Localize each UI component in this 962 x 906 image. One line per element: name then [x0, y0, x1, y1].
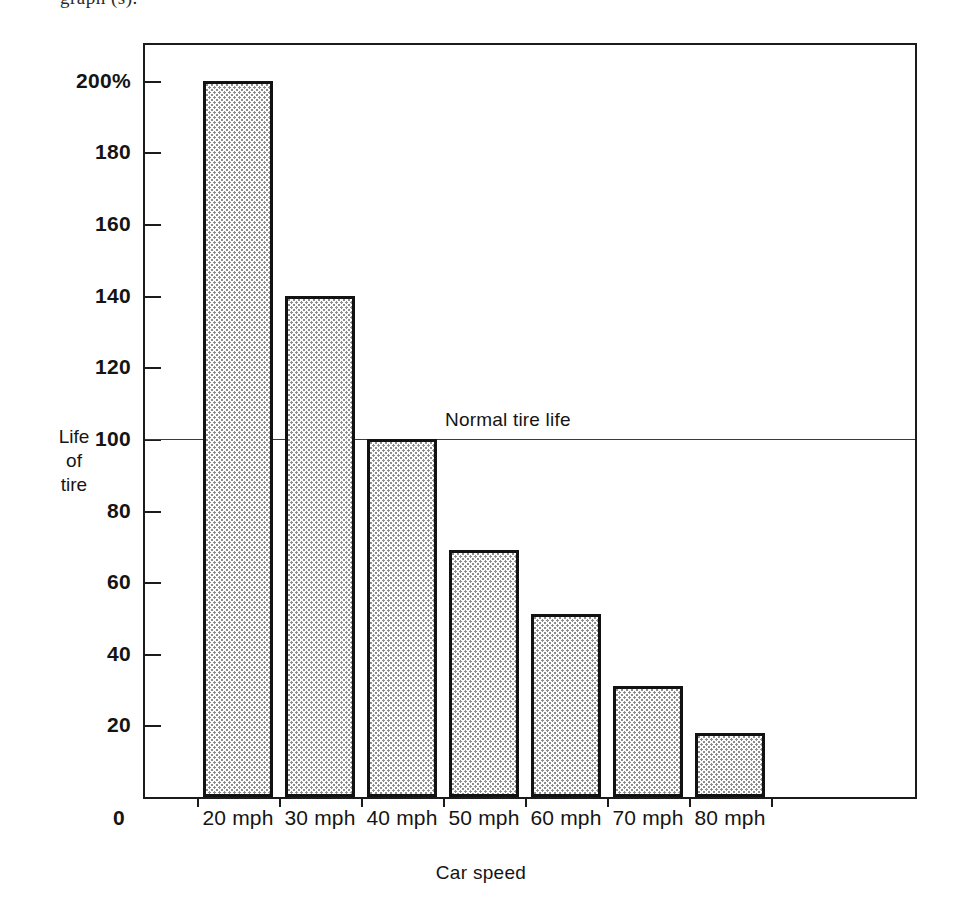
- y-axis-tick: [145, 582, 161, 584]
- y-axis-tick-label: 200%: [11, 69, 131, 93]
- x-axis-tick: [197, 797, 199, 807]
- bar: [531, 614, 601, 797]
- x-axis-tick-label: 20 mph: [202, 806, 273, 830]
- bar: [613, 686, 683, 797]
- x-axis-tick-label: 40 mph: [366, 806, 437, 830]
- y-axis-tick: [145, 296, 161, 298]
- bar: [203, 81, 273, 797]
- caption-fragment: graph (s).: [60, 0, 138, 9]
- x-axis-tick: [279, 797, 281, 807]
- x-axis-tick: [443, 797, 445, 807]
- y-axis-tick: [145, 367, 161, 369]
- y-axis-tick: [145, 654, 161, 656]
- y-axis-title-line-3: tire: [34, 473, 114, 497]
- y-axis-tick-label: 80: [11, 499, 131, 523]
- bar: [367, 439, 437, 797]
- y-axis-tick: [145, 81, 161, 83]
- x-axis-tick: [361, 797, 363, 807]
- y-axis-tick-label: 160: [11, 212, 131, 236]
- y-axis-tick-label: 100: [11, 427, 131, 451]
- y-axis-tick-label: 60: [11, 570, 131, 594]
- y-axis-title-line-2: of: [34, 449, 114, 473]
- bar: [285, 296, 355, 797]
- x-axis-tick: [607, 797, 609, 807]
- bar: [695, 733, 765, 797]
- normal-tire-life-label: Normal tire life: [445, 409, 571, 431]
- x-axis-tick-label: 30 mph: [284, 806, 355, 830]
- y-axis-zero-label: 0: [113, 806, 125, 830]
- bar: [449, 550, 519, 797]
- x-axis-title: Car speed: [0, 862, 962, 884]
- y-axis-tick: [145, 224, 161, 226]
- y-axis-tick: [145, 511, 161, 513]
- x-axis-tick: [525, 797, 527, 807]
- y-axis-tick-label: 120: [11, 355, 131, 379]
- x-axis-tick-label: 50 mph: [448, 806, 519, 830]
- y-axis-tick-label: 140: [11, 284, 131, 308]
- x-axis-tick: [771, 797, 773, 807]
- y-axis-tick: [145, 725, 161, 727]
- y-axis-tick: [145, 152, 161, 154]
- x-axis-tick-label: 60 mph: [530, 806, 601, 830]
- y-axis-tick-label: 20: [11, 713, 131, 737]
- y-axis-tick-label: 180: [11, 140, 131, 164]
- x-axis-tick-label: 70 mph: [612, 806, 683, 830]
- y-axis-tick-label: 40: [11, 642, 131, 666]
- x-axis-tick: [689, 797, 691, 807]
- x-axis-tick-label: 80 mph: [694, 806, 765, 830]
